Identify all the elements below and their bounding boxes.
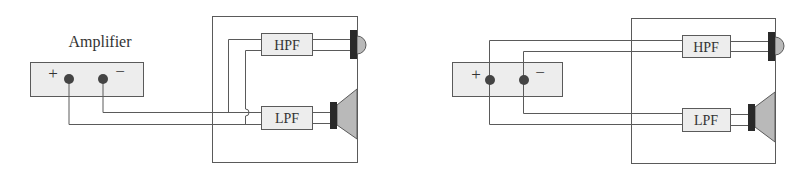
amplifier-box [453,63,563,97]
minus-terminal-icon [519,75,529,85]
diagram-bi-wiring [453,19,776,164]
hpf-label: HPF [274,38,300,53]
minus-sign: − [115,62,125,81]
plus-terminal-icon [485,75,495,85]
hpf-label: HPF [693,40,719,55]
minus-sign: − [535,63,545,82]
woofer-icon [330,89,357,139]
plus-sign: + [48,64,58,83]
wiring-diagrams: Amplifier + − HPF LPF + − HPF LPF [0,0,811,173]
woofer-icon [748,92,775,142]
amplifier-label: Amplifier [68,33,132,51]
lpf-label: LPF [694,113,718,128]
plus-sign: + [471,65,481,84]
hpf-feed-wire-2-crossover-hop [246,51,262,125]
minus-terminal-icon [98,74,108,84]
lpf-label: LPF [275,111,299,126]
plus-terminal-icon [64,74,74,84]
